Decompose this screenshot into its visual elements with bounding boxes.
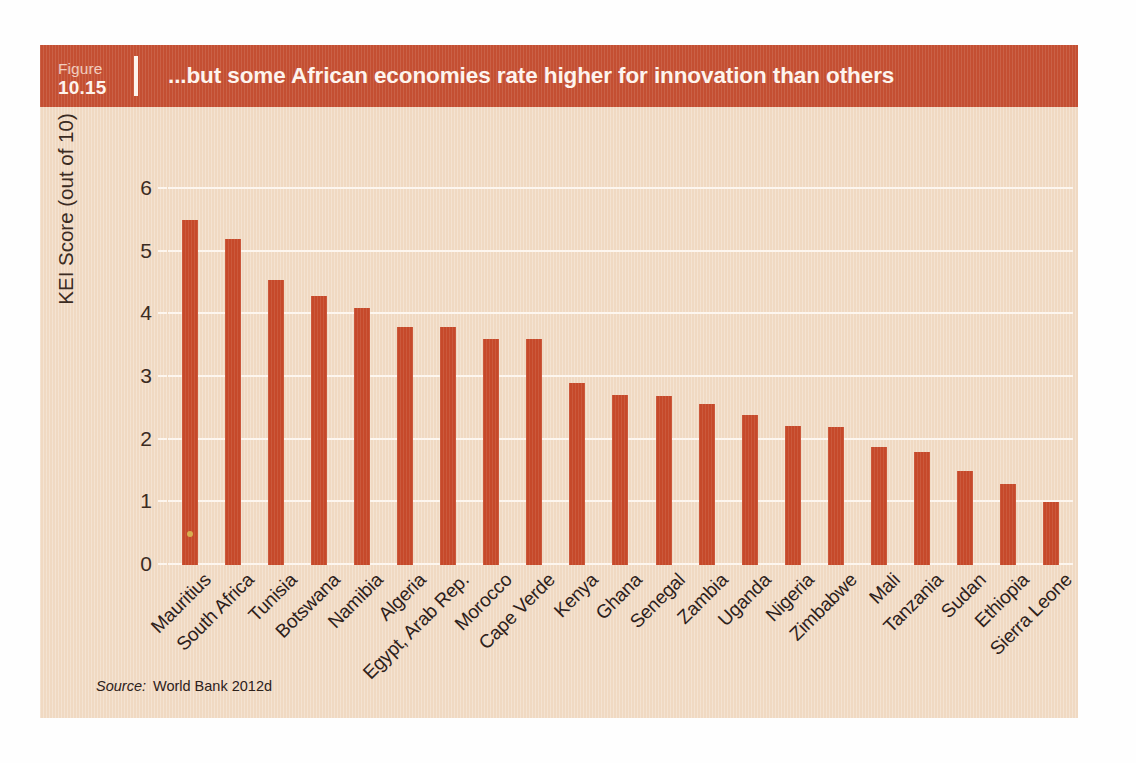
print-speck-mark [187,531,193,537]
y-tick-dash-3 [158,375,167,377]
bar-slot [470,189,513,565]
bar-slot [340,189,383,565]
y-tick-label-5: 5 [140,239,152,260]
bar[interactable] [699,404,715,565]
bar[interactable] [354,308,370,565]
bar-slot [254,189,297,565]
x-axis-label-group: MauritiusSouth AfricaTunisiaBotswanaNami… [168,569,1073,719]
bar[interactable] [742,415,758,565]
figure-header: Figure 10.15 ...but some African economi… [40,45,1078,107]
bar-slot [599,189,642,565]
bar-slot [728,189,771,565]
bar[interactable] [483,339,499,565]
source-note: Source:World Bank 2012d [96,678,272,694]
figure-screenshot: Figure 10.15 ...but some African economi… [0,0,1136,763]
bar[interactable] [268,280,284,565]
bar[interactable] [397,327,413,565]
bar[interactable] [871,447,887,565]
bar-slot [771,189,814,565]
figure-panel: Figure 10.15 ...but some African economi… [40,45,1078,718]
bar-slot [211,189,254,565]
y-tick-dash-6 [158,187,167,189]
bar-slot [513,189,556,565]
y-tick-dash-2 [158,438,167,440]
bar-slot [556,189,599,565]
y-tick-dash-4 [158,312,167,314]
bar[interactable] [1043,502,1059,565]
bar-slot [168,189,211,565]
y-tick-label-6: 6 [140,177,152,198]
bar[interactable] [957,471,973,565]
bar[interactable] [440,327,456,565]
bar[interactable] [569,383,585,565]
bar-slot [383,189,426,565]
bar-slot [987,189,1030,565]
bar-slot [427,189,470,565]
bar[interactable] [1000,484,1016,565]
bar-slot [901,189,944,565]
figure-label: Figure [58,61,134,77]
x-tick-label: Kenya [550,569,603,622]
y-axis-title: KEI Score (out of 10) [54,79,78,339]
y-tick-label-3: 3 [140,365,152,386]
y-tick-dash-5 [158,250,167,252]
bar-slot [944,189,987,565]
y-tick-label-2: 2 [140,427,152,448]
bar-slot [685,189,728,565]
bar-slot [814,189,857,565]
bar[interactable] [914,452,930,565]
plot-container: KEI Score (out of 10) 0123456 MauritiusS… [40,107,1078,718]
plot-area: 0123456 [168,189,1073,565]
bar[interactable] [526,339,542,565]
bar[interactable] [311,296,327,565]
y-tick-label-1: 1 [140,490,152,511]
y-tick-label-4: 4 [140,302,152,323]
bar[interactable] [225,239,241,565]
figure-title: ...but some African economies rate highe… [138,45,1078,107]
bar-slot [1030,189,1073,565]
y-tick-dash-0 [158,563,167,565]
y-tick-dash-1 [158,500,167,502]
bar-group [168,189,1073,565]
source-value: World Bank 2012d [153,678,272,694]
bar[interactable] [785,426,801,565]
bar-slot [642,189,685,565]
bar[interactable] [182,220,198,565]
source-keyword: Source: [96,678,146,694]
bar-slot [297,189,340,565]
bar[interactable] [656,396,672,565]
bar-slot [858,189,901,565]
y-tick-label-0: 0 [140,553,152,574]
bar[interactable] [828,427,844,565]
bar[interactable] [612,395,628,565]
